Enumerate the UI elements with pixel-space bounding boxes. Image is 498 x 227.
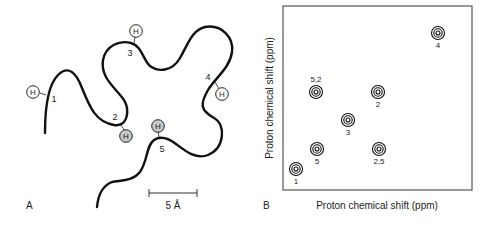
panel-a: H 1 H 2 H 3 H 4 H 5 (26, 25, 232, 211)
peak-2: 2 (372, 86, 385, 110)
residue-label-4: 4 (205, 72, 210, 82)
peak-5: 5 (311, 143, 324, 167)
residue-3: H 3 (127, 25, 142, 58)
residue-label-3: 3 (127, 48, 132, 58)
svg-text:H: H (133, 27, 139, 36)
panel-b-label: B (263, 200, 270, 211)
scale-bar-label: 5 Å (165, 199, 180, 211)
residue-1: H 1 (27, 86, 57, 104)
residue-label-1: 1 (51, 94, 56, 104)
svg-text:H: H (30, 88, 36, 97)
peak-4: 4 (432, 27, 445, 51)
panel-b: 1 5 2,5 3 5,2 2 4 Proton chemical shift … (263, 6, 472, 211)
panel-a-label: A (26, 200, 33, 211)
scale-bar: 5 Å (149, 189, 197, 211)
residue-label-5: 5 (159, 144, 164, 154)
svg-text:5: 5 (315, 157, 320, 166)
figure: H 1 H 2 H 3 H 4 H 5 (0, 0, 498, 227)
svg-text:3: 3 (346, 128, 351, 137)
x-axis-label: Proton chemical shift (ppm) (316, 200, 438, 211)
residue-4: H 4 (205, 72, 228, 100)
svg-text:2: 2 (376, 100, 381, 109)
svg-text:H: H (123, 132, 129, 141)
svg-text:1: 1 (294, 177, 299, 186)
residue-label-2: 2 (112, 112, 117, 122)
svg-text:5,2: 5,2 (310, 75, 322, 84)
peak-1: 1 (290, 163, 303, 187)
svg-text:4: 4 (436, 41, 441, 50)
peak-3: 3 (342, 114, 355, 138)
polypeptide-backbone (45, 27, 232, 207)
peak-5-2: 5,2 (310, 75, 323, 99)
svg-text:2,5: 2,5 (373, 157, 385, 166)
peak-2-5: 2,5 (373, 143, 386, 167)
svg-text:H: H (155, 122, 161, 131)
svg-text:H: H (219, 90, 225, 99)
residue-2: H 2 (112, 112, 132, 142)
y-axis-label: Proton chemical shift (ppm) (264, 37, 275, 159)
